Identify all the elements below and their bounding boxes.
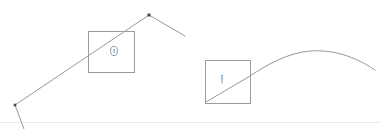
left-figure-group: I [14, 14, 185, 130]
lower-left-vertex-marker[interactable] [14, 104, 17, 107]
right-inspection-box[interactable] [206, 61, 251, 104]
left-inspection-box[interactable] [89, 32, 135, 73]
right-figure-group: I [206, 51, 376, 104]
diagram-canvas: I I [0, 0, 381, 129]
diagram-svg: I I [0, 0, 381, 129]
apex-vertex-marker[interactable] [148, 14, 151, 17]
arcing-curve-path [206, 51, 375, 102]
circled-marker-glyph-label: I [113, 48, 115, 54]
